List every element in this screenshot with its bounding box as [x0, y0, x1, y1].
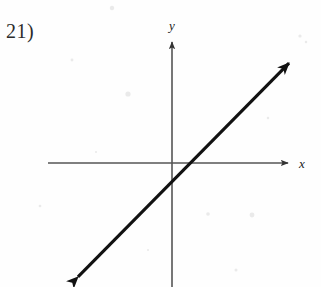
y-axis-label: y — [167, 18, 175, 33]
coordinate-plane-figure: x y — [0, 0, 321, 287]
x-axis-label: x — [298, 156, 305, 171]
figure-panel: 21) x y — [0, 0, 321, 287]
plotted-line — [78, 63, 289, 277]
